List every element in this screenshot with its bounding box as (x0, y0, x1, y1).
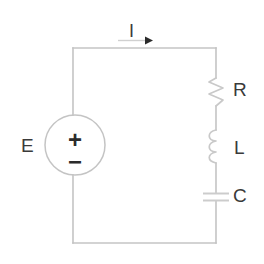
current-arrow-head-icon (145, 37, 153, 45)
inductor-label: L (234, 138, 245, 157)
polarity-negative-sign: − (64, 150, 86, 174)
resistor-label: R (233, 80, 247, 99)
inductor-coil-icon (209, 130, 216, 163)
resistor-zigzag-icon (209, 78, 223, 106)
circuit-diagram: E I R L C + − (0, 0, 264, 264)
voltage-source-label: E (21, 136, 34, 155)
capacitor-label: C (233, 186, 247, 205)
current-label: I (129, 22, 134, 40)
